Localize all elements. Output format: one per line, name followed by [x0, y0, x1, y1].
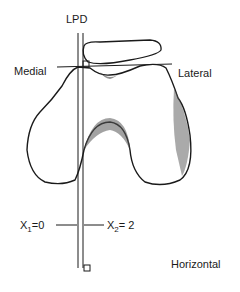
right-angle-marker-bottom: [84, 265, 90, 271]
patella-outline: [83, 40, 161, 64]
label-lateral: Lateral: [178, 67, 212, 79]
label-horizontal: Horizontal: [171, 258, 221, 270]
notch-shading: [84, 118, 130, 150]
label-medial: Medial: [14, 65, 46, 77]
horizontal-reference-line: [57, 64, 172, 67]
label-x1: X1=0: [20, 219, 44, 236]
femur-diagram: [0, 0, 240, 292]
label-lpd: LPD: [66, 13, 87, 25]
label-x2: X2= 2: [107, 219, 134, 236]
lateral-shading: [173, 88, 190, 176]
